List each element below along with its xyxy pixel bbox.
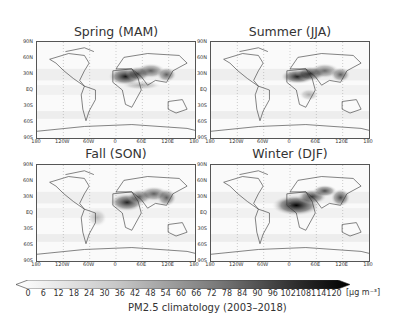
pm25-heatmap [37,42,195,138]
lat-tick-label: 90N [17,38,33,44]
lat-tick-label: 30S [17,102,33,108]
lat-tick-label: 60S [191,241,207,247]
lon-tick-label: 0 [279,261,299,267]
figure-caption: PM2.5 climatology (2003–2018) [128,302,287,313]
lat-tick-label: 60N [17,54,33,60]
lon-tick-label: 60W [79,261,99,267]
lon-tick-label: 180 [358,261,378,267]
map-panel [36,164,196,262]
pm25-heatmap [211,42,369,138]
lat-tick-label: 90N [17,161,33,167]
lat-tick-label: 30N [17,193,33,199]
lat-tick-label: 30S [191,225,207,231]
lat-tick-label: 60N [191,54,207,60]
lat-tick-label: 60N [17,177,33,183]
pm25-heatmap [211,165,369,261]
lat-tick-label: 30S [191,102,207,108]
lon-tick-label: 60W [253,138,273,144]
map-panel [210,41,370,139]
panel-title: Summer (JJA) [210,24,370,39]
colorbar [16,280,352,289]
lon-tick-label: 180 [26,261,46,267]
map-panel [36,41,196,139]
lon-tick-label: 60W [253,261,273,267]
lat-tick-label: 30N [191,193,207,199]
lat-tick-label: 30N [17,70,33,76]
lat-tick-label: 90N [191,38,207,44]
panel-title: Fall (SON) [36,146,196,161]
lon-tick-label: 60E [131,261,151,267]
lon-tick-label: 60E [131,138,151,144]
colorbar-unit: [μg m⁻³] [346,288,380,297]
lon-tick-label: 120E [158,261,178,267]
pm25-heatmap [37,165,195,261]
lon-tick-label: 60W [79,138,99,144]
lat-tick-label: 60S [17,118,33,124]
lat-tick-label: EQ [191,209,207,215]
lon-tick-label: 180 [200,138,220,144]
lon-tick-label: 120W [52,138,72,144]
lon-tick-label: 120W [52,261,72,267]
panel-title: Spring (MAM) [36,24,196,39]
lat-tick-label: EQ [17,209,33,215]
lon-tick-label: 0 [105,138,125,144]
lon-tick-label: 120E [332,261,352,267]
lon-tick-label: 60E [305,261,325,267]
lat-tick-label: 60S [17,241,33,247]
lon-tick-label: 180 [200,261,220,267]
lon-tick-label: 120E [332,138,352,144]
lon-tick-label: 120W [226,138,246,144]
panel-title: Winter (DJF) [210,146,370,161]
lon-tick-label: 0 [279,138,299,144]
colorbar-tick-label: 120 [324,289,344,298]
lat-tick-label: 60N [191,177,207,183]
lat-tick-label: EQ [17,86,33,92]
lon-tick-label: 120E [158,138,178,144]
lat-tick-label: 60S [191,118,207,124]
lat-tick-label: 30S [17,225,33,231]
lat-tick-label: 90N [191,161,207,167]
lon-tick-label: 120W [226,261,246,267]
lat-tick-label: EQ [191,86,207,92]
map-panel [210,164,370,262]
lon-tick-label: 0 [105,261,125,267]
lat-tick-label: 30N [191,70,207,76]
lon-tick-label: 180 [26,138,46,144]
lon-tick-label: 60E [305,138,325,144]
lon-tick-label: 180 [358,138,378,144]
